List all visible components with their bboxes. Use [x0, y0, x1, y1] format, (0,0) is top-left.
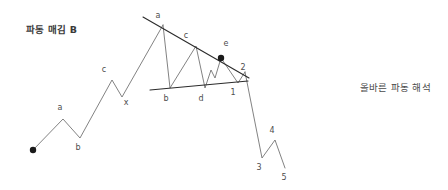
wave-label-a-4: a — [156, 11, 161, 20]
wave-e-dot — [218, 55, 224, 61]
wave-diagram-canvas: abcxabcde12345 파동 매김 B 올바른 파동 해석 — [0, 0, 448, 190]
wave-label-a-0: a — [58, 103, 63, 112]
wave-label-2-10: 2 — [240, 63, 245, 72]
wave-path-triangle-zigzag — [163, 25, 245, 88]
wave-label-b-5: b — [163, 94, 168, 103]
wave-path-impulse-down — [245, 72, 285, 168]
diagram-title-left: 파동 매김 B — [26, 22, 77, 36]
diagram-title-right: 올바른 파동 해석 — [360, 80, 431, 94]
origin-dot — [30, 147, 36, 153]
wave-label-d-7: d — [198, 94, 203, 103]
wave-path-upper-trendline — [143, 17, 249, 78]
wave-label-4-12: 4 — [269, 126, 274, 135]
wave-label-1-9: 1 — [230, 88, 235, 97]
wave-label-3-11: 3 — [256, 163, 261, 172]
wave-label-5-13: 5 — [281, 173, 286, 182]
wave-label-c-6: c — [184, 31, 188, 40]
wave-label-b-1: b — [75, 143, 80, 152]
wave-label-e-8: e — [224, 39, 229, 48]
wave-path-leading-zigzag — [33, 25, 163, 150]
wave-label-x-3: x — [124, 98, 129, 107]
wave-label-c-2: c — [102, 65, 106, 74]
